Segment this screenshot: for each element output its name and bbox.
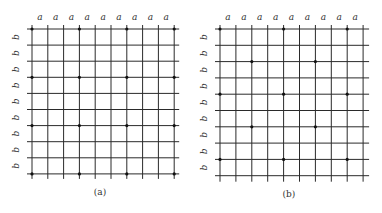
column-spacing-label: a [53,12,58,22]
row-spacing-label: b [199,83,209,89]
lattice-point [78,124,81,127]
column-spacing-label: a [352,12,357,22]
lattice-point [78,76,81,79]
row-spacing-label: b [11,34,21,40]
column-spacing-label: a [305,12,310,22]
column-spacing-label: a [69,12,74,22]
lattice-point [173,27,176,30]
row-spacing-label: b [199,67,209,73]
lattice-point [125,124,128,127]
row-spacing-label: b [11,82,21,88]
lattice-diagram-figure: aaaaaaaaabbbbbbbbb aaaaaaaaabbbbbbbbb (a… [0,0,382,213]
row-spacing-label: b [199,116,209,122]
panel-b-caption: (b) [283,189,296,199]
lattice-point [250,125,253,128]
column-spacing-label: a [241,12,246,22]
lattice-point [78,172,81,175]
lattice-point [78,27,81,30]
lattice-point [218,158,221,161]
panel-a-caption: (a) [94,187,106,197]
column-spacing-label: a [100,12,105,22]
column-spacing-label: a [116,12,121,22]
row-spacing-label: b [11,163,21,169]
panel-a-lattice: aaaaaaaaabbbbbbbbb [11,12,179,179]
lattice-point [346,93,349,96]
lattice-point [30,76,33,79]
lattice-point [282,27,285,30]
column-spacing-label: a [273,12,278,22]
lattice-point [314,125,317,128]
column-spacing-label: a [37,12,42,22]
column-spacing-label: a [337,12,342,22]
row-spacing-label: b [11,114,21,120]
row-spacing-label: b [199,164,209,170]
column-spacing-label: a [132,12,137,22]
lattice-point [314,60,317,63]
lattice-point [125,76,128,79]
column-spacing-label: a [164,12,169,22]
lattice-point [346,27,349,30]
row-spacing-label: b [199,132,209,138]
row-spacing-label: b [199,99,209,105]
row-spacing-label: b [11,131,21,137]
row-spacing-label: b [11,66,21,72]
row-spacing-label: b [199,34,209,40]
lattice-point [218,93,221,96]
lattice-point [173,172,176,175]
row-spacing-label: b [11,50,21,56]
lattice-point [30,27,33,30]
lattice-point [173,124,176,127]
panel-b-lattice: aaaaaaaaabbbbbbbbb [199,12,369,182]
lattice-point [282,93,285,96]
row-spacing-label: b [199,50,209,56]
row-spacing-label: b [199,148,209,154]
column-spacing-label: a [148,12,153,22]
lattice-point [125,172,128,175]
row-spacing-label: b [11,98,21,104]
lattice-point [125,27,128,30]
row-spacing-label: b [11,147,21,153]
column-spacing-label: a [289,12,294,22]
lattice-point [30,172,33,175]
column-spacing-label: a [225,12,230,22]
column-spacing-label: a [321,12,326,22]
lattice-point [173,76,176,79]
column-spacing-label: a [257,12,262,22]
lattice-point [218,27,221,30]
lattice-point [282,158,285,161]
column-spacing-label: a [85,12,90,22]
lattice-point [30,124,33,127]
lattice-point [250,60,253,63]
lattice-point [346,158,349,161]
